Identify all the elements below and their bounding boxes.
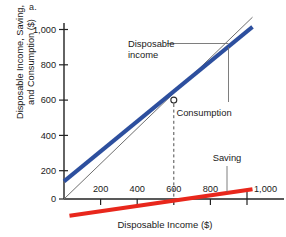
annotation-disposable-income-line2: income — [128, 49, 158, 60]
y-tick-label-600: 600 — [41, 95, 56, 105]
x-tick-label-1000: 1,000 — [254, 184, 277, 194]
x-tick-label-400: 400 — [130, 184, 145, 194]
y-tick-label-0: 0 — [51, 194, 56, 204]
break-even-point-marker — [171, 97, 177, 103]
annotation-consumption: Consumption — [176, 107, 231, 118]
y-tick-label-400: 400 — [41, 131, 56, 141]
chart-canvas: 0 200 400 600 800 1,000 200 400 600 800 … — [0, 0, 286, 237]
annotation-disposable-income-line1: Disposable — [128, 38, 174, 49]
figure-panel: a. Disposable Income, Saving, and Consum… — [0, 0, 286, 237]
y-tick-label-1000: 1,000 — [33, 25, 56, 35]
annotation-saving: Saving — [213, 152, 242, 163]
y-tick-label-200: 200 — [41, 166, 56, 176]
y-axis-tick-labels: 0 200 400 600 800 1,000 — [33, 25, 56, 205]
x-tick-label-800: 800 — [203, 184, 218, 194]
y-tick-label-800: 800 — [41, 60, 56, 70]
x-tick-label-200: 200 — [93, 184, 108, 194]
